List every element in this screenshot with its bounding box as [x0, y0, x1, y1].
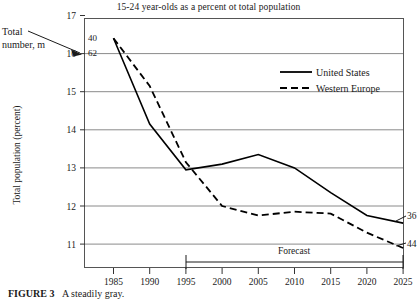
end-label-united-states: 36: [407, 211, 417, 221]
y-tick-13: 13: [67, 163, 77, 173]
x-tick-1990: 1990: [140, 277, 159, 287]
x-tick-2015: 2015: [321, 277, 340, 287]
y-tick-12: 12: [67, 202, 77, 212]
x-tick-1995: 1995: [176, 277, 195, 287]
chart-plot: 17 16 15 14 13 12 11 1985 1990 1995 2000: [0, 0, 417, 301]
x-tick-2025: 2025: [394, 277, 413, 287]
forecast-bracket: [186, 255, 403, 269]
chart-legend: United States Western Europe: [280, 67, 380, 94]
x-axis-ticks: [114, 268, 404, 274]
legend-label-united-states: United States: [316, 67, 370, 78]
plot-frame: [85, 19, 404, 268]
start-label-united-states: 40: [88, 33, 98, 43]
figure-caption: FIGURE 3 A steadily gray.: [8, 288, 124, 299]
legend-label-western-europe: Western Europe: [316, 83, 380, 94]
figure-caption-text: A steadily gray.: [62, 288, 124, 299]
y-tick-17: 17: [67, 11, 77, 21]
figure-number: FIGURE 3: [8, 288, 54, 299]
x-axis-tick-labels: 1985 1990 1995 2000 2005 2010 2015 2020 …: [104, 277, 413, 287]
figure-container: 15-24 year-olds as a percent ot total po…: [0, 0, 417, 301]
x-tick-2005: 2005: [249, 277, 268, 287]
y-tick-15: 15: [67, 87, 77, 97]
start-label-western-europe: 62: [88, 48, 97, 58]
x-tick-2000: 2000: [213, 277, 232, 287]
forecast-label: Forecast: [278, 246, 311, 256]
x-tick-2010: 2010: [285, 277, 304, 287]
x-tick-2020: 2020: [357, 277, 376, 287]
end-label-western-europe: 44: [407, 239, 417, 249]
callout-arrow: [28, 31, 82, 57]
y-tick-11: 11: [67, 240, 76, 250]
end-label-leaders: [396, 216, 406, 246]
x-tick-1985: 1985: [104, 277, 123, 287]
y-tick-14: 14: [67, 125, 77, 135]
y-axis-tick-labels: 17 16 15 14 13 12 11: [67, 11, 77, 250]
